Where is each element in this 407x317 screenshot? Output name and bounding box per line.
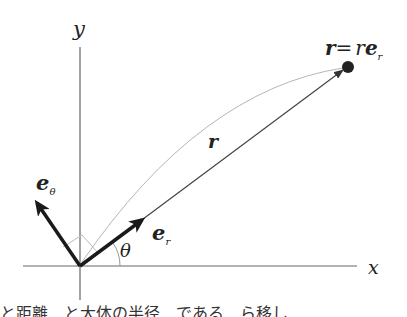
theta-label: θ [120, 240, 131, 261]
caption-text: と距離 と大体の半径 である…ら移し [0, 303, 407, 317]
position-point [342, 61, 354, 73]
theta-arc [113, 243, 120, 266]
e-theta-label: eθ [36, 170, 55, 197]
position-label: r=rer [325, 36, 384, 62]
e-theta-vector [37, 203, 80, 266]
y-axis-label: y [72, 17, 86, 41]
polar-diagram: y x r r=rer er eθ θ [0, 0, 407, 317]
x-axis-label: x [368, 256, 379, 278]
r-vector-label: r [208, 130, 220, 152]
path-curve [82, 68, 343, 262]
e-r-label: er [152, 220, 171, 247]
